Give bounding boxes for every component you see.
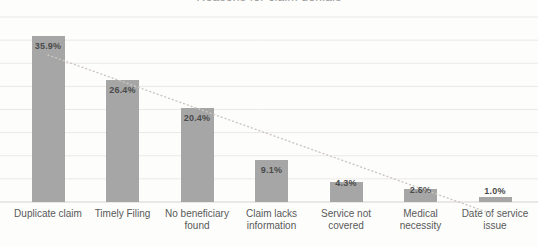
- category-label: Timely Filing: [82, 208, 164, 220]
- chart: Reasons for claim denials 35.9%26.4%20.4…: [0, 0, 538, 247]
- category-label: Service not covered: [305, 208, 387, 231]
- category-label: Duplicate claim: [7, 208, 89, 220]
- category-label: Date of service issue: [454, 208, 536, 231]
- category-label: No beneficiary found: [156, 208, 238, 231]
- category-label: Claim lacks information: [231, 208, 313, 231]
- category-axis-labels: Duplicate claimTimely FilingNo beneficia…: [0, 0, 538, 247]
- category-label: Medical necessity: [380, 208, 462, 231]
